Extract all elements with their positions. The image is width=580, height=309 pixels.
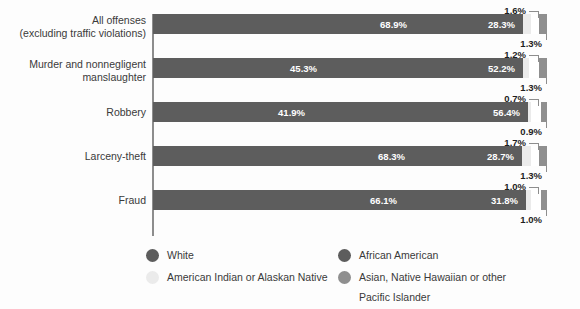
leader-line-american-indian [529,99,539,106]
category-label: Fraud [0,194,146,207]
category-label: Robbery [0,106,146,119]
legend-swatch-african-american-icon [338,249,351,262]
callout-american-indian: 1.6% [486,5,526,16]
segment-asian-pacific[interactable] [539,58,547,78]
legend-item-african-american[interactable]: African American [338,249,438,262]
callout-american-indian: 1.2% [486,49,526,60]
callout-asian-pacific: 1.3% [502,82,542,93]
chart-row: Fraud 66.1% 31.8% 1.0% 1.0% [0,190,580,232]
legend-item-american-indian[interactable]: American Indian or Alaskan Native [146,271,328,284]
leader-line-american-indian [529,11,539,18]
segment-african-american[interactable]: 56.4% [313,102,528,122]
segment-asian-pacific[interactable] [541,190,547,210]
segment-white[interactable]: 45.3% [153,58,325,78]
leader-line-american-indian [529,187,539,194]
legend-swatch-american-indian-icon [146,271,159,284]
leader-line-asian-pacific [546,210,547,216]
leader-line-american-indian [529,55,539,62]
callout-american-indian: 1.7% [486,137,526,148]
callout-asian-pacific: 1.0% [502,214,542,225]
segment-value-white: 66.1% [370,195,397,206]
segment-asian-pacific[interactable] [539,146,547,166]
segment-african-american[interactable]: 28.7% [413,146,522,166]
category-label: Murder and nonnegligent manslaughter [0,58,146,83]
stacked-bar: 41.9% 56.4% [153,102,547,122]
leader-line-asian-pacific [546,166,547,172]
category-label: All offenses (excluding traffic violatio… [0,14,146,39]
segment-value-white: 41.9% [278,107,305,118]
callout-american-indian: 0.7% [486,93,526,104]
leader-line-asian-pacific [546,122,547,128]
legend-label-white: White [167,249,194,262]
segment-white[interactable]: 66.1% [153,190,405,210]
stacked-bar: 68.3% 28.7% [153,146,547,166]
chart-legend: White African American American Indian o… [0,243,580,309]
callout-asian-pacific: 0.9% [502,126,542,137]
callout-american-indian: 1.0% [486,181,526,192]
leader-line-asian-pacific [546,34,547,40]
segment-african-american[interactable]: 28.3% [415,14,523,34]
segment-value-african-american: 56.4% [493,107,520,118]
segment-value-white: 68.3% [378,151,405,162]
stacked-bar: 45.3% 52.2% [153,58,547,78]
legend-item-white[interactable]: White [146,249,194,262]
segment-african-american[interactable]: 31.8% [405,190,526,210]
segment-value-african-american: 52.2% [488,63,515,74]
legend-swatch-asian-pacific-icon [338,271,351,284]
legend-label-asian-pacific: Asian, Native Hawaiian or other [359,271,506,284]
segment-value-african-american: 31.8% [491,195,518,206]
leader-line-american-indian [529,143,539,150]
leader-line-asian-pacific [546,78,547,84]
legend-label-african-american: African American [359,249,438,262]
legend-swatch-white-icon [146,249,159,262]
segment-asian-pacific[interactable] [539,14,547,34]
legend-label-asian-pacific-continuation: Pacific Islander [359,291,430,303]
segment-african-american[interactable]: 52.2% [325,58,523,78]
segment-asian-pacific[interactable] [541,102,547,122]
segment-value-african-american: 28.7% [487,151,514,162]
callout-asian-pacific: 1.3% [502,38,542,49]
legend-label-american-indian: American Indian or Alaskan Native [167,271,328,284]
segment-white[interactable]: 68.3% [153,146,413,166]
callout-asian-pacific: 1.3% [502,170,542,181]
segment-value-white: 68.9% [380,19,407,30]
plot-area: All offenses (excluding traffic violatio… [0,0,580,245]
chart-root: All offenses (excluding traffic violatio… [0,0,580,309]
segment-value-white: 45.3% [290,63,317,74]
segment-value-african-american: 28.3% [488,19,515,30]
segment-white[interactable]: 68.9% [153,14,415,34]
stacked-bar: 66.1% 31.8% [153,190,547,210]
segment-white[interactable]: 41.9% [153,102,313,122]
stacked-bar: 68.9% 28.3% [153,14,547,34]
category-label: Larceny-theft [0,150,146,163]
legend-item-asian-pacific[interactable]: Asian, Native Hawaiian or other [338,271,506,284]
